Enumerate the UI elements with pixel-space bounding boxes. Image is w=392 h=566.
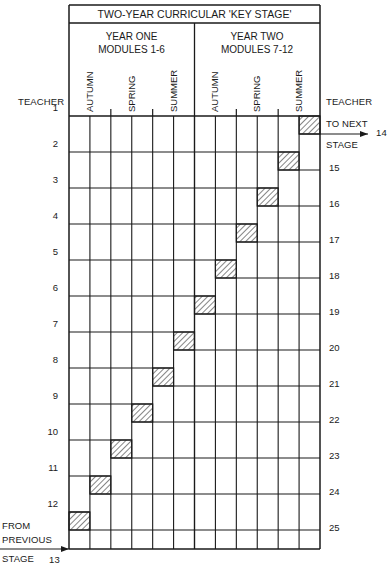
right-teacher-number: 22 xyxy=(329,414,340,425)
from-previous-line1: FROM xyxy=(2,520,30,531)
hatched-module-cell xyxy=(153,368,174,386)
from-previous-number: 13 xyxy=(49,554,60,565)
right-teacher-number: 18 xyxy=(329,270,340,281)
hatched-module-cell xyxy=(195,296,216,314)
right-teacher-number: 19 xyxy=(329,306,340,317)
staggered-curriculum-grid xyxy=(0,0,392,566)
left-teacher-number: 6 xyxy=(38,282,58,293)
year-two-header: YEAR TWO MODULES 7-12 xyxy=(194,30,320,56)
to-next-stage-number: 14 xyxy=(376,127,387,138)
diagram-title: TWO-YEAR CURRICULAR 'KEY STAGE' xyxy=(69,5,320,23)
left-teacher-number: 11 xyxy=(38,462,58,473)
right-teacher-number: 21 xyxy=(329,378,340,389)
left-teacher-number: 7 xyxy=(38,318,58,329)
left-teacher-number: 4 xyxy=(38,210,58,221)
year-one-header: YEAR ONE MODULES 1-6 xyxy=(69,30,194,56)
hatched-module-cell xyxy=(236,224,257,242)
year-two-modules: MODULES 7-12 xyxy=(194,43,320,56)
right-teacher-number: 16 xyxy=(329,198,340,209)
hatched-module-cell xyxy=(278,152,299,170)
hatched-module-cell xyxy=(111,440,132,458)
left-teacher-number: 2 xyxy=(38,138,58,149)
left-teacher-number: 10 xyxy=(38,426,58,437)
hatched-module-cell xyxy=(257,188,278,206)
left-teacher-number: 12 xyxy=(38,498,58,509)
right-teacher-number: 25 xyxy=(329,522,340,533)
hatched-module-cell xyxy=(299,116,320,134)
term-label-autumn-2: AUTUMN xyxy=(209,71,220,112)
term-label-spring-2: SPRING xyxy=(251,76,262,112)
term-label-spring-1: SPRING xyxy=(126,76,137,112)
hatched-module-cell xyxy=(215,260,236,278)
right-teacher-number: 24 xyxy=(329,486,340,497)
term-label-summer-2: SUMMER xyxy=(293,70,304,112)
term-label-summer-1: SUMMER xyxy=(168,70,179,112)
right-teacher-number: 23 xyxy=(329,450,340,461)
right-teacher-number: 20 xyxy=(329,342,340,353)
right-teacher-number: 15 xyxy=(329,162,340,173)
from-previous-line2: PREVIOUS xyxy=(2,534,52,545)
left-teacher-number: 9 xyxy=(38,390,58,401)
to-next-stage-line2: STAGE xyxy=(326,139,358,150)
hatched-module-cell xyxy=(174,332,195,350)
year-two-label: YEAR TWO xyxy=(194,30,320,43)
left-teacher-number: 3 xyxy=(38,174,58,185)
hatched-module-cell xyxy=(69,512,90,530)
left-teacher-number: 8 xyxy=(38,354,58,365)
right-teacher-axis-label: TEACHER xyxy=(326,96,372,107)
left-teacher-number: 5 xyxy=(38,246,58,257)
term-label-autumn-1: AUTUMN xyxy=(84,71,95,112)
hatched-module-cell xyxy=(132,404,153,422)
from-previous-line3: STAGE xyxy=(2,553,34,564)
year-one-modules: MODULES 1-6 xyxy=(69,43,194,56)
to-next-stage-line1: TO NEXT xyxy=(326,118,368,129)
year-one-label: YEAR ONE xyxy=(69,30,194,43)
left-teacher-number: 1 xyxy=(38,102,58,113)
hatched-module-cell xyxy=(90,476,111,494)
right-teacher-number: 17 xyxy=(329,234,340,245)
